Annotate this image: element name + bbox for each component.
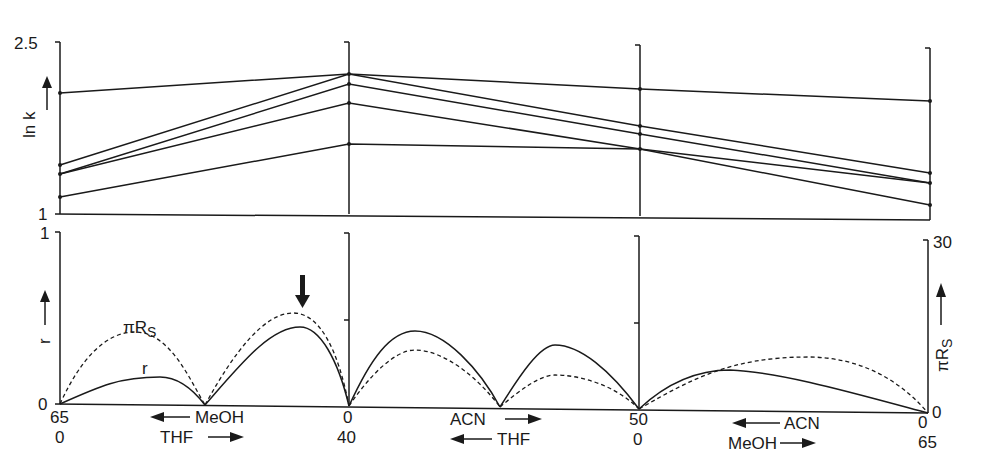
arrow-head-icon: [40, 290, 50, 302]
x2-bottom-label: 0: [633, 430, 642, 449]
arrow-head-icon: [936, 283, 946, 297]
r-curve-seg2a: [349, 331, 500, 407]
bottom-left-min-label: 0: [38, 395, 47, 414]
svg-text:ln k: ln k: [20, 111, 39, 138]
seg1-top-label: MeOH: [195, 408, 244, 427]
segment-3-labels: ACN MeOH: [728, 414, 820, 453]
seg2-bottom-label: THF: [497, 430, 530, 449]
top-series-4: [60, 103, 930, 183]
x1-top-label: 0: [343, 408, 352, 427]
x1-bottom-label: 40: [337, 428, 356, 447]
bottom-dashed: [60, 313, 928, 413]
seg3-bottom-label: MeOH: [728, 434, 777, 453]
arrow-right-icon: [230, 432, 244, 442]
bottom-right-max-label: 30: [933, 233, 952, 252]
top-panel: [55, 42, 930, 220]
segment-2-labels: ACN THF: [450, 410, 542, 449]
svg-text:πRS: πRS: [933, 339, 955, 372]
seg1-bottom-label: THF: [160, 428, 193, 447]
bottom-right-axis-title: πRS: [933, 283, 955, 372]
top-series-2: [60, 74, 930, 173]
x2-top-label: 50: [629, 410, 648, 429]
arrow-right-icon: [802, 438, 816, 448]
bottom-left-axis-title: r: [35, 290, 54, 344]
top-baseline: [55, 214, 930, 220]
pirs-curve-seg1b: [205, 313, 349, 406]
pirs-curve-seg2b: [500, 375, 639, 409]
top-series-1: [60, 74, 930, 101]
svg-text:r: r: [35, 338, 54, 344]
optimum-arrow-icon: [295, 275, 310, 308]
arrow-left-icon: [732, 418, 746, 428]
x3-bottom-label: 65: [918, 433, 937, 452]
arrow-right-icon: [528, 414, 542, 424]
arrow-left-icon: [450, 434, 464, 444]
top-y-axis-title: ln k: [20, 76, 52, 138]
bottom-panel: [55, 232, 928, 413]
bottom-right-min-label: 0: [932, 403, 941, 422]
r-curve-label: r: [142, 359, 148, 378]
chart-figure: 2.5 1 ln k 1 0 r: [0, 0, 986, 471]
top-y-max-label: 2.5: [14, 34, 38, 53]
bottom-baseline: [55, 404, 928, 413]
r-curve-seg1a: [60, 377, 205, 405]
x3-top-label: 0: [918, 413, 927, 432]
arrow-left-icon: [150, 412, 164, 422]
x0-bottom-label: 0: [55, 428, 64, 447]
r-curve-seg2b: [500, 345, 639, 409]
top-data-points: [58, 72, 932, 207]
x0-top-label: 65: [50, 408, 69, 427]
top-series-5: [60, 144, 930, 205]
arrow-head-icon: [42, 76, 52, 88]
segment-1-labels: MeOH THF: [150, 408, 244, 447]
pirs-curve-seg3: [639, 357, 928, 413]
top-y-min-label: 1: [38, 205, 47, 224]
seg3-top-label: ACN: [784, 414, 820, 433]
bottom-left-max-label: 1: [40, 224, 49, 243]
pirs-curve-label: πRS: [123, 318, 156, 340]
pirs-curve-seg2a: [349, 350, 500, 407]
seg2-top-label: ACN: [450, 410, 486, 429]
